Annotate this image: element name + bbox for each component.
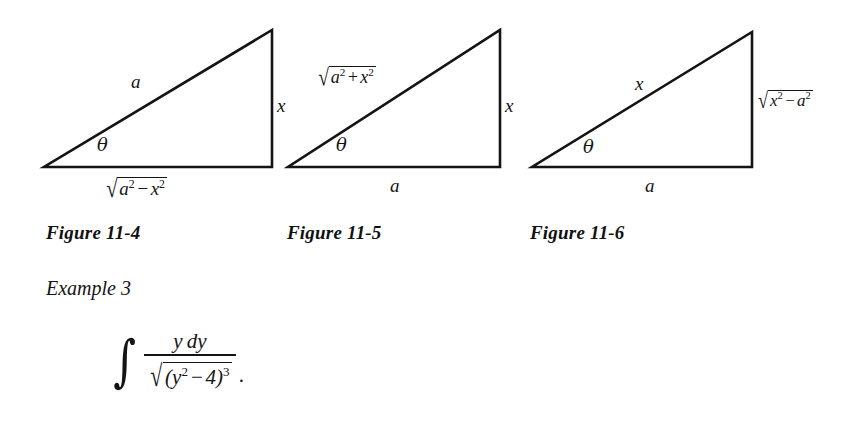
- fraction-numerator: y dy: [163, 330, 216, 354]
- trailing-period: .: [239, 363, 244, 392]
- fraction-denominator: √(y2 − 4)3: [144, 356, 235, 392]
- integral-sign: ∫: [113, 338, 136, 384]
- triangle-11-6-graphic: [0, 0, 864, 215]
- angle-label-11-6: θ: [583, 138, 594, 156]
- figure-11-6: x θ √x2 − a2 a: [0, 0, 864, 215]
- hypotenuse-label-11-6: x: [635, 74, 643, 93]
- caption-figure-11-6: Figure 11-6: [530, 222, 625, 244]
- vertical-label-11-6: √x2 − a2: [757, 88, 813, 110]
- caption-figure-11-5: Figure 11-5: [287, 222, 382, 244]
- fraction: y dy √(y2 − 4)3: [144, 330, 235, 392]
- integral-expression: ∫ y dy √(y2 − 4)3 .: [110, 330, 244, 392]
- triangle-outline: [532, 32, 752, 167]
- example-label: Example 3: [46, 277, 131, 300]
- caption-figure-11-4: Figure 11-4: [46, 222, 141, 244]
- document-page: a θ x √a2 − x2 √a2 + x2 θ x a: [0, 0, 864, 423]
- base-label-11-6: a: [645, 176, 655, 195]
